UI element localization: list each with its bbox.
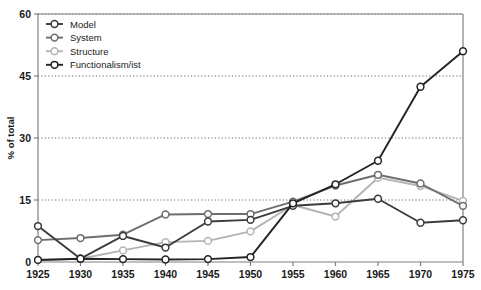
data-point (247, 254, 254, 261)
chart-container: 015304560 192519301935194019451950195519… (0, 0, 481, 290)
y-tick-label-60: 60 (19, 8, 31, 20)
data-point (162, 256, 169, 263)
x-axis-ticks: 1925193019351940194519501955196019651970… (26, 262, 475, 280)
data-point (77, 235, 84, 242)
data-point (460, 217, 467, 224)
data-point (77, 255, 84, 262)
x-tick-label-1945: 1945 (196, 268, 220, 280)
x-tick-label-1970: 1970 (409, 268, 433, 280)
legend-marker-model (51, 21, 58, 28)
data-point (375, 171, 382, 178)
data-point (417, 83, 424, 90)
y-axis-title: % of total (5, 117, 16, 160)
data-point (162, 211, 169, 218)
legend-label: Structure (70, 46, 109, 57)
y-tick-label-45: 45 (19, 70, 31, 82)
data-point (35, 257, 42, 264)
x-tick-label-1965: 1965 (366, 268, 390, 280)
data-point (332, 213, 339, 220)
legend-label: Model (70, 19, 96, 30)
data-point (162, 244, 169, 251)
legend-marker-functionalism (51, 61, 58, 68)
data-point (417, 219, 424, 226)
data-point (332, 200, 339, 207)
data-point (332, 181, 339, 188)
data-point (120, 256, 127, 263)
data-point (290, 200, 297, 207)
data-point (460, 48, 467, 55)
data-point (120, 233, 127, 240)
data-point (417, 180, 424, 187)
data-point (247, 216, 254, 223)
y-tick-label-15: 15 (19, 194, 31, 206)
data-point (205, 238, 212, 245)
legend-item-structure[interactable]: Structure (46, 46, 109, 57)
legend-item-model[interactable]: Model (46, 19, 96, 30)
y-tick-label-0: 0 (25, 256, 31, 268)
legend-label: System (70, 32, 102, 43)
x-tick-label-1930: 1930 (69, 268, 93, 280)
line-chart: 015304560 192519301935194019451950195519… (0, 0, 481, 290)
data-point (205, 211, 212, 218)
legend-marker-structure (51, 48, 58, 55)
x-tick-label-1950: 1950 (239, 268, 263, 280)
data-point (205, 218, 212, 225)
data-point (35, 237, 42, 244)
data-point (205, 256, 212, 263)
legend-label: Functionalism/ist (70, 59, 141, 70)
y-tick-label-30: 30 (19, 132, 31, 144)
data-point (460, 202, 467, 209)
data-point (35, 223, 42, 230)
data-point (247, 228, 254, 235)
x-tick-label-1935: 1935 (111, 268, 135, 280)
data-point (375, 195, 382, 202)
data-point (120, 247, 127, 254)
legend-marker-system (51, 34, 58, 41)
data-point (375, 157, 382, 164)
x-tick-label-1975: 1975 (451, 268, 475, 280)
x-tick-label-1955: 1955 (281, 268, 305, 280)
x-tick-label-1940: 1940 (154, 268, 178, 280)
legend-item-system[interactable]: System (46, 32, 102, 43)
x-tick-label-1960: 1960 (324, 268, 348, 280)
x-tick-label-1925: 1925 (26, 268, 50, 280)
